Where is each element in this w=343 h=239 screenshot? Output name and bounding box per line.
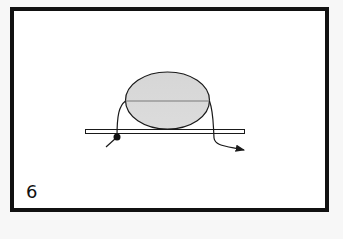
right-thread-arrow	[210, 101, 245, 150]
diagram-drawing	[0, 0, 343, 239]
knot-dot-icon	[114, 134, 121, 141]
horizontal-bar	[86, 130, 245, 134]
